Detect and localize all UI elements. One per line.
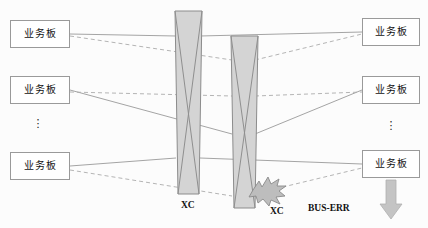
board-label: 业务板 [24,29,57,39]
right-vertical-ellipsis: ⋮ [385,124,397,128]
solid-links-right [200,32,362,164]
left-service-board-3[interactable]: 业务板 [10,152,70,180]
down-arrow-icon [380,180,402,219]
xc-board-2[interactable] [231,36,258,208]
board-label: 业务板 [375,85,408,95]
xc-board-1[interactable] [175,11,202,194]
board-label: 业务板 [24,161,57,171]
diagram-canvas: 业务板 业务板 业务板 ⋮ 业务板 业务板 业务板 ⋮ XC XC BUS-ER… [0,0,428,228]
left-ellipsis-glyph: ⋮ [32,122,44,126]
xc-label-1: XC [181,200,195,210]
board-label: 业务板 [24,85,57,95]
right-service-board-3[interactable]: 业务板 [362,150,420,178]
left-vertical-ellipsis: ⋮ [32,122,44,126]
left-service-board-2[interactable]: 业务板 [10,76,70,104]
board-label: 业务板 [375,159,408,169]
board-label: 业务板 [375,27,408,37]
xc-label-2: XC [270,206,284,216]
right-service-board-2[interactable]: 业务板 [362,76,420,104]
solid-links-left [70,34,232,166]
right-service-board-1[interactable]: 业务板 [362,18,420,46]
left-service-board-1[interactable]: 业务板 [10,20,70,48]
right-ellipsis-glyph: ⋮ [385,124,397,128]
dashed-links [70,34,362,196]
bus-err-label: BUS-ERR [308,203,350,213]
